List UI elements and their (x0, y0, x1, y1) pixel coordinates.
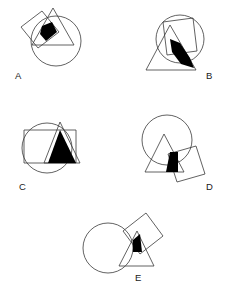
figure-container: ABCDE (0, 0, 228, 290)
panel-label-a: A (15, 70, 22, 81)
panel-label-c: C (19, 181, 26, 192)
panel-label-e: E (135, 272, 142, 283)
panel-label-d: D (206, 181, 213, 192)
shapes-figure: ABCDE (0, 0, 228, 290)
panel-label-b: B (206, 70, 213, 81)
